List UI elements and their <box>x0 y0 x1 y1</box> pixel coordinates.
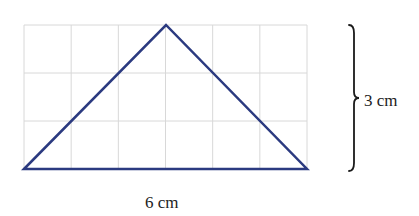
triangle-diagram <box>0 0 419 216</box>
grid <box>24 25 307 169</box>
height-brace <box>349 25 359 171</box>
height-length-label: 3 cm <box>364 92 398 109</box>
base-length-label: 6 cm <box>145 194 179 211</box>
